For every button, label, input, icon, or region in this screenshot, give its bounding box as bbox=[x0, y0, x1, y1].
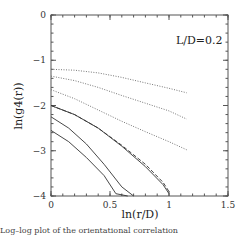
series-dotted-3 bbox=[51, 90, 187, 150]
y-tick-label: −3 bbox=[33, 146, 47, 156]
series-solid-2 bbox=[51, 117, 134, 196]
y-tick-label: 0 bbox=[40, 10, 46, 20]
series-dashed-1 bbox=[51, 106, 169, 192]
x-tick-label: 0 bbox=[48, 200, 54, 210]
x-axis-label: ln(r/D) bbox=[122, 208, 159, 221]
series-dotted-1 bbox=[51, 69, 187, 93]
series-solid-1 bbox=[51, 106, 169, 194]
x-tick-label: 0.5 bbox=[103, 200, 118, 210]
series-dotted-2 bbox=[51, 76, 187, 119]
x-tick-label: 1.5 bbox=[221, 200, 236, 210]
x-tick-label: 1 bbox=[166, 200, 172, 210]
data-series bbox=[51, 69, 187, 196]
y-axis-label: ln(g4(r)) bbox=[12, 82, 25, 129]
annotation-label: L/D=0.2 bbox=[176, 34, 223, 47]
y-tick-label: −4 bbox=[33, 191, 47, 201]
figure-caption: Log–log plot of the orientational correl… bbox=[0, 226, 178, 235]
series-solid-3 bbox=[51, 130, 128, 196]
y-tick-label: −2 bbox=[33, 101, 46, 111]
y-tick-label: −1 bbox=[33, 55, 46, 65]
chart-figure: 00.511.50−1−2−3−4 L/D=0.2 ln(r/D) ln(g4(… bbox=[0, 0, 248, 235]
